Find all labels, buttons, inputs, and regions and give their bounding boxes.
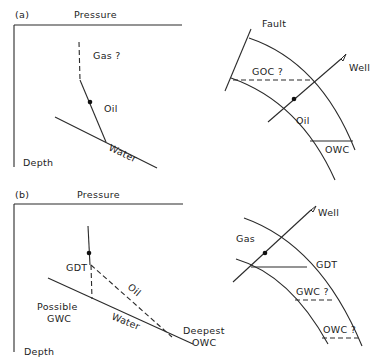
panel-a-plot: (a) Pressure Depth Gas ? Oil Water bbox=[14, 9, 182, 168]
panel-a-fault-label: Fault bbox=[262, 18, 286, 29]
panel-b-oil-label: Oil bbox=[126, 281, 144, 298]
panel-b-pressure-point bbox=[87, 251, 92, 256]
panel-b-owc-label: OWC ? bbox=[323, 324, 356, 335]
panel-a-fault-line bbox=[225, 29, 251, 91]
panel-b-sample-point bbox=[263, 251, 268, 256]
panel-a-oil-label: Oil bbox=[104, 103, 118, 114]
panel-b-gdt-label: GDT bbox=[66, 262, 87, 273]
panel-a-water-gradient-line bbox=[55, 117, 157, 168]
panel-b-gwc-label: GWC ? bbox=[296, 286, 329, 297]
panel-a-oil-gradient-line bbox=[80, 80, 106, 142]
panel-a-well-label: Well bbox=[349, 62, 370, 73]
panel-b-well-label: Well bbox=[318, 207, 339, 218]
panel-a-depth-axis-label: Depth bbox=[23, 157, 53, 168]
panel-a-gas-gradient-line bbox=[79, 42, 80, 80]
panel-a-pressure-axis-label: Pressure bbox=[74, 9, 117, 20]
panel-b-well-head-icon bbox=[311, 206, 316, 212]
panel-a-well-head-icon bbox=[341, 54, 346, 61]
panel-a-owc-label: OWC bbox=[325, 144, 349, 155]
panel-a-sample-point bbox=[292, 97, 297, 102]
panel-a-cross-section: Fault GOC ? Well Oil OWC bbox=[225, 18, 370, 180]
panel-b-gas-gradient-line bbox=[88, 226, 90, 265]
panel-b-deepest-owc-label-line2: OWC bbox=[192, 337, 216, 348]
panel-b-pressure-axis-label: Pressure bbox=[77, 189, 120, 200]
panel-b-well-path bbox=[233, 210, 311, 282]
panel-a-oil-zone-label: Oil bbox=[296, 115, 310, 126]
panel-b-possible-gwc-label-line2: GWC bbox=[47, 313, 71, 324]
panel-b-reservoir-base bbox=[236, 259, 328, 344]
panel-b-plot: (b) Pressure Depth GDT Oil Water Possibl… bbox=[14, 189, 225, 357]
panel-a-gas-label: Gas ? bbox=[93, 50, 121, 61]
panel-a-reservoir-base bbox=[231, 78, 335, 180]
panel-a-label: (a) bbox=[15, 9, 29, 20]
panel-b-deepest-owc-label-line1: Deepest bbox=[183, 325, 225, 336]
panel-b-possible-gwc-label-line1: Possible bbox=[37, 301, 78, 312]
panel-a-water-label: Water bbox=[107, 142, 138, 164]
panel-b-gdt-label: GDT bbox=[316, 259, 337, 270]
pressure-depth-diagram: (a) Pressure Depth Gas ? Oil Water Fault… bbox=[0, 0, 376, 363]
panel-a-pressure-point bbox=[88, 100, 93, 105]
panel-b-depth-axis-label: Depth bbox=[24, 346, 54, 357]
panel-b-possible-gwc-line bbox=[91, 265, 92, 299]
panel-b-label: (b) bbox=[15, 189, 29, 200]
diagram-canvas: (a) Pressure Depth Gas ? Oil Water Fault… bbox=[0, 0, 376, 363]
panel-a-goc-label: GOC ? bbox=[252, 66, 283, 77]
panel-b-cross-section: Well Gas GDT GWC ? OWC ? bbox=[233, 206, 362, 346]
panel-b-gas-zone-label: Gas bbox=[236, 233, 255, 244]
